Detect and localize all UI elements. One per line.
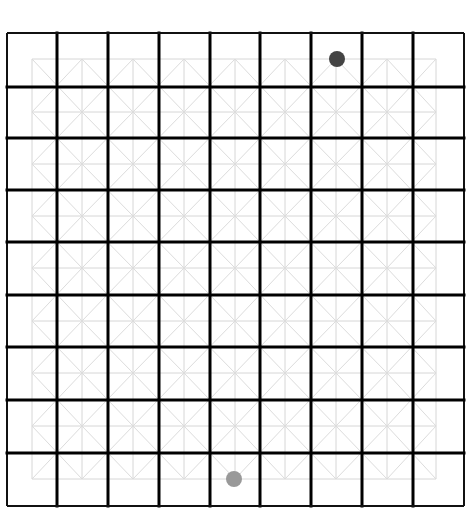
- board-cell-r0-c8[interactable]: [413, 33, 464, 87]
- opponent-pawn[interactable]: [329, 51, 345, 67]
- game-board: [0, 0, 470, 508]
- player-pawn[interactable]: [226, 471, 242, 487]
- board-canvas: [0, 0, 470, 508]
